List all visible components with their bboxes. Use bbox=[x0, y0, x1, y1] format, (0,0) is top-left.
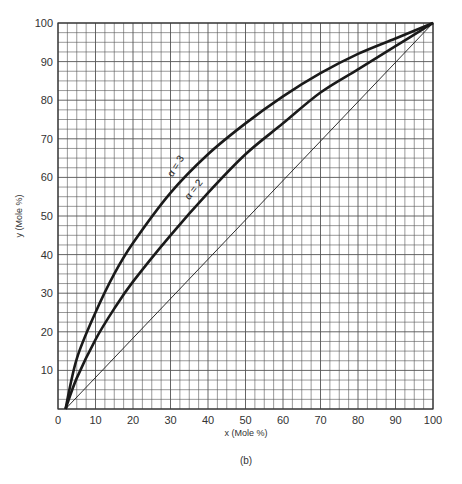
y-tick-label: 100 bbox=[35, 17, 53, 29]
grid bbox=[58, 23, 433, 409]
vle-chart: 0102030405060708090100102030405060708090… bbox=[0, 0, 462, 484]
x-tick-label: 50 bbox=[239, 414, 251, 426]
x-tick-label: 40 bbox=[202, 414, 214, 426]
y-tick-label: 90 bbox=[41, 56, 53, 68]
y-tick-label: 70 bbox=[41, 133, 53, 145]
y-tick-label: 50 bbox=[41, 210, 53, 222]
x-tick-label: 60 bbox=[277, 414, 289, 426]
x-tick-label: 20 bbox=[127, 414, 139, 426]
x-tick-label: 10 bbox=[89, 414, 101, 426]
y-tick-label: 10 bbox=[41, 364, 53, 376]
x-tick-label: 90 bbox=[389, 414, 401, 426]
x-tick-label: 0 bbox=[55, 414, 61, 426]
y-tick-label: 80 bbox=[41, 94, 53, 106]
y-tick-label: 40 bbox=[41, 249, 53, 261]
y-tick-label: 60 bbox=[41, 171, 53, 183]
curve-label-alpha-3: α = 3 bbox=[165, 153, 187, 178]
x-tick-label: 70 bbox=[314, 414, 326, 426]
x-tick-label: 30 bbox=[164, 414, 176, 426]
y-tick-label: 20 bbox=[41, 326, 53, 338]
x-axis-label: x (Mole %) bbox=[224, 428, 267, 438]
y-axis-label: y (Mole %) bbox=[14, 194, 24, 237]
x-tick-label: 100 bbox=[424, 414, 442, 426]
figure-caption: (b) bbox=[240, 455, 252, 466]
y-tick-label: 30 bbox=[41, 287, 53, 299]
x-tick-label: 80 bbox=[352, 414, 364, 426]
